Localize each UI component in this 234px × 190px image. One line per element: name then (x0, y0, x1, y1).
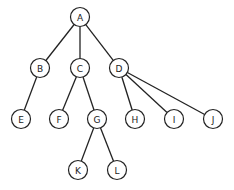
node-i: I (165, 110, 184, 129)
node-f: F (50, 110, 69, 129)
node-label: F (56, 115, 61, 125)
edge-d-h (122, 77, 132, 110)
node-l: L (108, 161, 127, 180)
node-g: G (88, 110, 107, 129)
node-h: H (126, 110, 145, 129)
node-label: D (116, 64, 123, 74)
tree-diagram: ABCDEFGHIJKL (0, 0, 234, 190)
edge-g-k (81, 128, 93, 161)
edge-b-e (24, 77, 36, 110)
node-label: I (173, 115, 176, 125)
edge-c-g (83, 77, 94, 110)
node-a: A (71, 8, 90, 27)
nodes-layer: ABCDEFGHIJKL (12, 8, 223, 180)
node-label: L (114, 166, 119, 176)
edge-c-f (63, 77, 77, 110)
node-label: E (18, 115, 24, 125)
node-label: B (37, 64, 43, 74)
node-label: G (94, 115, 101, 125)
node-b: B (31, 59, 50, 78)
edge-a-d (86, 25, 113, 61)
node-e: E (12, 110, 31, 129)
node-label: A (77, 13, 84, 23)
node-label: C (77, 64, 83, 74)
edge-a-b (46, 24, 74, 60)
node-label: J (211, 115, 215, 125)
edge-g-l (100, 128, 113, 161)
node-d: D (110, 59, 129, 78)
node-k: K (69, 161, 88, 180)
edges-layer (24, 24, 204, 161)
edge-d-i (126, 74, 167, 112)
node-label: H (132, 115, 139, 125)
node-j: J (204, 110, 223, 129)
edge-d-j (127, 73, 204, 115)
node-c: C (71, 59, 90, 78)
